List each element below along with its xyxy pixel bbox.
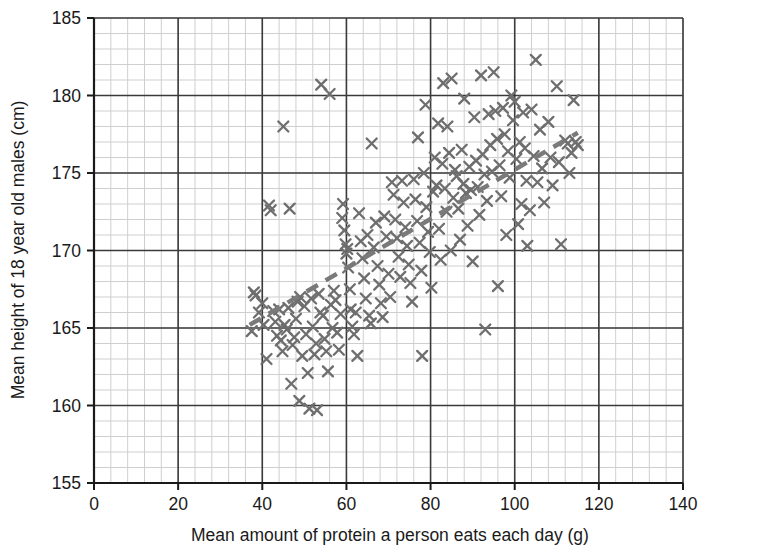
- data-point-marker: [312, 405, 322, 415]
- y-tick-label: 160: [52, 396, 81, 416]
- data-point-marker: [354, 208, 364, 218]
- data-point-marker: [539, 197, 549, 207]
- data-point-marker: [556, 239, 566, 249]
- y-tick-label: 175: [52, 163, 81, 183]
- y-axis-title: Mean height of 18 year old males (cm): [8, 101, 28, 400]
- data-point-marker: [339, 225, 349, 235]
- y-tick-label: 155: [52, 473, 81, 493]
- tick-labels-x: 020406080100120140: [89, 494, 698, 514]
- data-point-marker: [508, 115, 518, 125]
- data-point-marker: [532, 177, 542, 187]
- data-point-marker: [367, 139, 377, 149]
- data-point-marker: [425, 247, 435, 257]
- data-point-marker: [537, 163, 547, 173]
- data-point-marker: [525, 205, 535, 215]
- data-point-marker: [455, 235, 465, 245]
- x-tick-label: 120: [584, 494, 613, 514]
- data-point-marker: [349, 329, 359, 339]
- y-tick-label: 180: [52, 86, 81, 106]
- data-point-marker: [283, 303, 293, 313]
- data-point-marker: [378, 312, 388, 322]
- data-point-marker: [468, 256, 478, 266]
- data-point-marker: [336, 309, 346, 319]
- data-point-marker: [569, 95, 579, 105]
- data-point-marker: [413, 132, 423, 142]
- data-point-marker: [453, 204, 463, 214]
- tick-labels-y: 155160165170175180185: [52, 8, 81, 493]
- data-point-marker: [376, 298, 386, 308]
- data-point-marker: [552, 81, 562, 91]
- data-point-marker: [437, 159, 447, 169]
- x-tick-label: 0: [89, 494, 99, 514]
- grid-major: [94, 18, 683, 483]
- data-point-marker: [410, 194, 420, 204]
- data-point-marker: [309, 349, 319, 359]
- data-point-marker: [387, 177, 397, 187]
- data-point-marker: [457, 145, 467, 155]
- data-point-marker: [397, 176, 407, 186]
- data-point-marker: [402, 241, 412, 251]
- x-tick-label: 20: [168, 494, 188, 514]
- data-point-marker: [511, 154, 521, 164]
- x-tick-label: 40: [253, 494, 273, 514]
- data-point-marker: [436, 255, 446, 265]
- data-point-marker: [366, 318, 376, 328]
- data-point-marker: [384, 269, 394, 279]
- scatter-plot-figure: 020406080100120140 155160165170175180185…: [0, 0, 780, 553]
- data-point-marker: [522, 241, 532, 251]
- data-point-marker: [421, 100, 431, 110]
- x-tick-label: 140: [668, 494, 697, 514]
- data-point-marker: [469, 112, 479, 122]
- data-point-marker: [381, 232, 391, 242]
- data-point-marker: [285, 204, 295, 214]
- data-point-marker: [334, 345, 344, 355]
- data-point-marker: [434, 224, 444, 234]
- data-point-marker: [332, 328, 342, 338]
- data-point-marker: [531, 55, 541, 65]
- axis-ticks: [87, 18, 683, 490]
- data-point-marker: [399, 197, 409, 207]
- data-point-marker: [426, 283, 436, 293]
- data-point-marker: [448, 193, 458, 203]
- y-tick-label: 185: [52, 8, 81, 28]
- data-point-marker: [416, 266, 426, 276]
- data-point-marker: [489, 67, 499, 77]
- x-axis-title: Mean amount of protein a person eats eac…: [191, 525, 589, 545]
- data-point-marker: [303, 368, 313, 378]
- data-point-marker: [480, 325, 490, 335]
- data-point-marker: [361, 294, 371, 304]
- data-point-marker: [495, 160, 505, 170]
- data-point-marker: [394, 252, 404, 262]
- data-point-marker: [474, 210, 484, 220]
- x-tick-label: 80: [421, 494, 441, 514]
- data-point-marker: [521, 176, 531, 186]
- y-tick-label: 170: [52, 241, 81, 261]
- x-tick-label: 100: [500, 494, 529, 514]
- x-tick-label: 60: [337, 494, 357, 514]
- y-tick-label: 165: [52, 318, 81, 338]
- chart-canvas: 020406080100120140 155160165170175180185…: [0, 0, 780, 553]
- data-point-marker: [286, 379, 296, 389]
- data-point-marker: [404, 259, 414, 269]
- data-point-marker: [518, 108, 528, 118]
- data-point-marker: [407, 297, 417, 307]
- data-point-marker: [444, 148, 454, 158]
- data-point-marker: [289, 332, 299, 342]
- data-point-marker: [415, 238, 425, 248]
